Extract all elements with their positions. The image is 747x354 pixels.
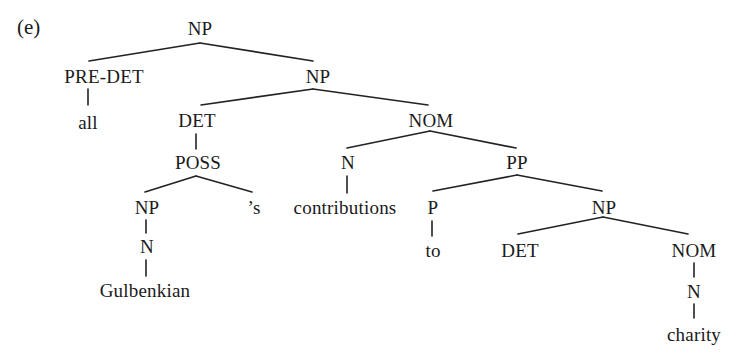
node-n-head: N <box>341 153 355 172</box>
node-p: P <box>428 198 439 217</box>
branch-n6-n9 <box>145 176 196 192</box>
word-contributions: contributions <box>294 198 397 217</box>
branch-n2-n5 <box>313 89 428 105</box>
node-pre-det: PRE-DET <box>64 67 144 86</box>
node-pp: PP <box>506 153 528 172</box>
word-all: all <box>78 113 98 132</box>
example-label: (e) <box>17 17 40 38</box>
node-det-object: DET <box>501 241 539 260</box>
branch-n0-n1 <box>89 43 200 61</box>
branch-n13-n16 <box>518 217 603 234</box>
tree-branches <box>0 0 747 354</box>
branch-n13-n17 <box>603 217 688 234</box>
syntax-tree-diagram: (e) NP PRE-DET NP all DET NOM POSS N PP … <box>0 0 747 354</box>
node-n-possessor: N <box>140 237 154 256</box>
branch-n8-n13 <box>517 175 602 191</box>
branch-n0-n2 <box>200 43 313 61</box>
branch-n8-n12 <box>433 175 517 191</box>
node-poss: POSS <box>175 153 221 172</box>
branch-n5-n7 <box>347 131 430 148</box>
node-nom: NOM <box>409 111 454 130</box>
word-possessive-s: ’s <box>247 198 260 217</box>
branch-n2-n4 <box>201 89 313 105</box>
node-nom-object: NOM <box>672 241 717 260</box>
word-to: to <box>425 241 440 260</box>
word-gulbenkian: Gulbenkian <box>100 281 191 300</box>
node-np-object: NP <box>592 198 617 217</box>
node-det: DET <box>178 111 216 130</box>
node-np-possessor: NP <box>135 198 160 217</box>
branch-n6-n10 <box>196 176 252 192</box>
branch-n5-n8 <box>430 131 516 148</box>
node-np-main: NP <box>306 67 331 86</box>
node-np-root: NP <box>188 19 213 38</box>
node-n-object: N <box>687 282 701 301</box>
word-charity: charity <box>667 325 721 344</box>
